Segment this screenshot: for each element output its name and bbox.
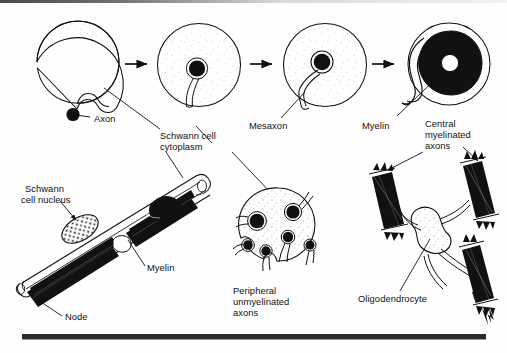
label-peripheral-unmyelinated-axons-line1: Peripheral xyxy=(233,285,276,296)
label-central-myelinated-axons-line1: Central xyxy=(425,118,456,129)
myelination-figure: Axon Schwann cell cytoplasm Mesaxon Myel… xyxy=(0,0,507,353)
label-schwann-cell-nucleus-line1: Schwann xyxy=(25,183,64,194)
label-schwann-cell-cytoplasm-line1: Schwann cell xyxy=(160,130,216,141)
leader-central-axons-left xyxy=(388,152,423,170)
stage-3-axon xyxy=(314,54,331,71)
label-mesaxon: Mesaxon xyxy=(249,120,287,131)
central-axon-segment-right-upper xyxy=(460,150,499,230)
leader-node xyxy=(38,300,62,316)
label-peripheral-unmyelinated-axons-line2: unmyelinated xyxy=(233,296,289,307)
label-central-myelinated-axons-line2: myelinated xyxy=(425,129,471,140)
label-peripheral-unmyelinated-axons-line3: axons xyxy=(233,307,258,318)
label-central-myelinated-axons-line3: axons xyxy=(425,140,450,151)
stage-3-group xyxy=(281,24,367,119)
label-schwann-cell-nucleus-line2: cell nucleus xyxy=(21,194,71,205)
leader-oligodendrocyte xyxy=(400,239,430,291)
label-myelin-bottom: Myelin xyxy=(147,262,174,273)
central-axon-segment-right-lower xyxy=(459,234,498,316)
label-myelin-top: Myelin xyxy=(362,120,389,131)
central-axon-segment-left xyxy=(369,162,408,241)
stage-2-group xyxy=(158,24,241,144)
stage-1-axon xyxy=(66,108,79,121)
label-oligodendrocyte: Oligodendrocyte xyxy=(358,293,427,304)
schwann-cell-nucleus-shape xyxy=(57,209,103,249)
label-axon: Axon xyxy=(94,113,116,124)
label-node: Node xyxy=(65,311,88,322)
unmyelinated-axons-group xyxy=(233,188,316,271)
stage-2-axon xyxy=(189,60,205,76)
stage-4-axon-lumen xyxy=(441,54,458,71)
leader-cytoplasm-to-unmyelinated xyxy=(232,152,272,194)
label-schwann-cell-cytoplasm-line2: cytoplasm xyxy=(160,141,203,152)
stage-4-group xyxy=(397,23,490,116)
leader-cytoplasm-to-fibre xyxy=(166,152,183,178)
bottom-rule xyxy=(22,334,486,339)
